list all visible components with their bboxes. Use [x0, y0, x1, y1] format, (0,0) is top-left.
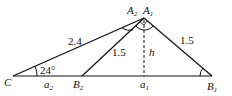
label-foot-a1: a1	[140, 78, 149, 92]
angle-arc-b1	[200, 68, 203, 76]
label-c: C	[4, 76, 12, 88]
label-b2a-length: 1.5	[112, 46, 126, 58]
label-a2-segment: a2	[44, 78, 54, 92]
label-angle: 24°	[40, 64, 55, 76]
triangle-diagram: C B2 B1 A1 A2 a1 a2 2.4 1.5 1.5 h 24°	[0, 0, 232, 96]
label-b1a-length: 1.5	[180, 34, 194, 46]
label-b2: B2	[73, 78, 84, 92]
label-b1: B1	[207, 80, 217, 94]
label-a1: A1	[142, 4, 153, 18]
label-height: h	[149, 46, 155, 58]
angle-arc-c	[35, 66, 37, 76]
label-ca-length: 2.4	[68, 35, 82, 47]
label-a2: A2	[126, 4, 138, 18]
